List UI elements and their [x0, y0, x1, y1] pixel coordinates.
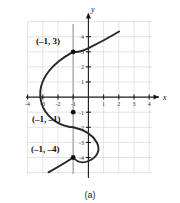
x-tick-label: -2 [56, 101, 61, 107]
point-label-3: (–1, –4) [31, 144, 60, 154]
x-tick-label: 3 [133, 101, 136, 107]
y-tick-label: 2 [81, 64, 84, 70]
x-tick-label: 1 [102, 101, 105, 107]
point-label-1: (–1, 3) [36, 36, 60, 46]
data-point-marker [71, 110, 76, 115]
data-point-marker [71, 49, 76, 54]
x-tick-label: 2 [117, 101, 120, 107]
figure-caption: (a) [85, 190, 96, 200]
point-label-2: (–1, –1) [32, 114, 61, 124]
y-tick-label: -3 [79, 140, 84, 146]
y-tick-label: 1 [81, 79, 84, 85]
y-axis-label: y [90, 5, 95, 14]
y-axis [86, 13, 91, 179]
x-axis-label: x [162, 93, 167, 102]
data-point-marker [71, 155, 76, 160]
x-tick-label: 4 [148, 101, 151, 107]
x-tick-label: -4 [25, 101, 30, 107]
x-axis [26, 95, 159, 100]
y-tick-label: 4 [81, 34, 84, 40]
coordinate-plane-svg: -4 -3 -2 -1 1 2 3 4 4 3 2 1 -1 -2 -3 -4 … [0, 0, 180, 203]
y-tick-label: -1 [79, 110, 84, 116]
y-tick-label: -4 [79, 155, 84, 161]
x-tick-label: -1 [71, 101, 76, 107]
graph-figure: -4 -3 -2 -1 1 2 3 4 4 3 2 1 -1 -2 -3 -4 … [0, 0, 180, 203]
